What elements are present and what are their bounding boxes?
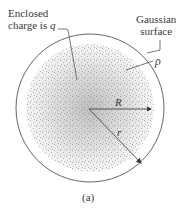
r-label: r [117,126,121,138]
rho-label: ρ [155,55,161,67]
enclosed-line1: Enclosed [8,7,55,19]
gaussian-line1: Gaussian [136,13,176,25]
enclosed-charge-label: Enclosed charge is q [8,7,55,31]
gaussian-surface-label: Gaussian surface [136,13,176,37]
R-label: R [115,96,122,108]
gaussian-leader-line [147,40,160,53]
gaussian-line2: surface [136,25,176,37]
q-symbol: q [50,19,56,31]
enclosed-line2: charge is q [8,19,55,31]
figure-caption: (a) [82,191,94,203]
charge-speckle [26,44,154,172]
